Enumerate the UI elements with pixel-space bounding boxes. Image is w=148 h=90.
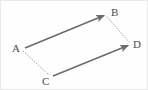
figure-frame: A B C D: [0, 0, 148, 90]
vertex-label-b: B: [111, 7, 118, 18]
vector-AB: [25, 16, 104, 49]
vertex-label-c: C: [42, 76, 49, 87]
segment-BD: [107, 17, 129, 42]
segment-AC: [23, 51, 49, 75]
vector-CD: [53, 46, 128, 77]
vector-diagram-canvas: [1, 1, 148, 90]
vertex-label-d: D: [133, 39, 141, 50]
vertex-label-a: A: [12, 43, 20, 54]
